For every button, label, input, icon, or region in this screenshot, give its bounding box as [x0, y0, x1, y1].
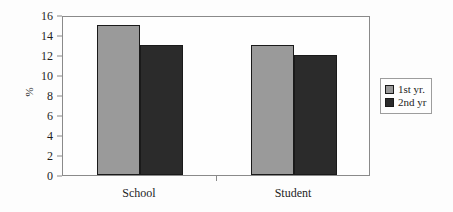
legend-item: 1st yr.	[385, 83, 426, 96]
y-tick-label: 0	[47, 169, 53, 184]
y-tick-label: 8	[47, 89, 53, 104]
y-tick-label: 12	[41, 49, 53, 64]
bar	[294, 55, 337, 175]
legend-item: 2nd yr	[385, 96, 426, 109]
y-tick-label: 2	[47, 149, 53, 164]
bar-chart-figure: % 0246810121416 1st yr. 2nd yr SchoolStu…	[0, 0, 453, 212]
legend-swatch-2nd-yr	[385, 98, 394, 107]
x-tick-label: Student	[275, 186, 312, 201]
x-axis-separator-tick	[216, 176, 217, 181]
bar	[140, 45, 183, 175]
y-tick-label: 10	[41, 69, 53, 84]
plot-area	[62, 16, 370, 176]
legend-label-1st-yr: 1st yr.	[398, 84, 425, 95]
y-tick-label: 14	[41, 29, 53, 44]
legend-swatch-1st-yr	[385, 85, 394, 94]
legend: 1st yr. 2nd yr	[380, 78, 432, 114]
y-tick-label: 4	[47, 129, 53, 144]
y-tick-label: 16	[41, 9, 53, 24]
x-tick-label: School	[122, 186, 155, 201]
y-axis: 0246810121416	[0, 16, 62, 176]
bar	[251, 45, 294, 175]
legend-label-2nd-yr: 2nd yr	[398, 97, 426, 108]
y-tick-label: 6	[47, 109, 53, 124]
bar	[97, 25, 140, 175]
